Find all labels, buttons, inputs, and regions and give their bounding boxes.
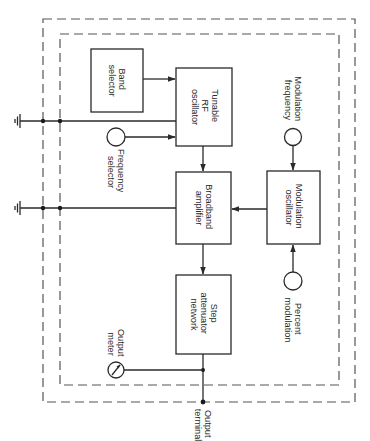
svg-text:Modulation oscillator: Modulation oscillator [284, 184, 304, 232]
output-meter-control: Output meter [106, 329, 126, 378]
frequency-selector-control[interactable]: Frequency selector [106, 128, 126, 195]
control-label: Percent [293, 303, 303, 335]
ground-icon [15, 201, 20, 215]
control-label: modulation [283, 298, 293, 343]
control-label: meter [106, 332, 116, 356]
output-terminal[interactable]: Output terminal [193, 400, 213, 441]
control-label: Frequency [116, 149, 126, 193]
rf-signal-generator-block-diagram: Band selector Tunable RF oscillator Freq… [0, 0, 370, 441]
svg-text:Frequency selector: Frequency selector [106, 149, 126, 195]
knob-icon[interactable] [107, 128, 125, 146]
broadband-amplifier-block: Broadband amplifier [176, 172, 231, 244]
block-label: selector [107, 64, 117, 96]
control-label: Output [116, 329, 126, 357]
knob-icon[interactable] [285, 129, 302, 146]
terminal-label: terminal [193, 409, 203, 441]
block-label: Modulation [294, 184, 304, 229]
tunable-rf-oscillator-block: Tunable RF oscillator [176, 68, 232, 146]
control-label: selector [106, 156, 116, 188]
block-label: Tunable [210, 89, 220, 122]
ground-icon [15, 114, 20, 128]
block-label: Band [117, 68, 127, 89]
step-attenuator-network-block: Step attenuator network [176, 275, 231, 354]
band-selector-block: Band selector [91, 49, 143, 112]
modulation-oscillator-block: Modulation oscillator [267, 171, 320, 244]
control-label: frequency [283, 80, 293, 121]
control-label: Modulation [293, 76, 303, 121]
svg-text:Band selector: Band selector [107, 64, 127, 96]
block-label: RF [200, 100, 210, 113]
meter-icon [108, 362, 124, 378]
knob-icon[interactable] [284, 272, 302, 290]
block-label: amplifier [194, 191, 204, 226]
block-label: network [189, 298, 199, 331]
modulation-frequency-control[interactable]: Modulation frequency [283, 76, 303, 145]
svg-text:Output terminal: Output terminal [193, 409, 213, 441]
block-label: oscillator [190, 89, 200, 125]
svg-text:Percent modulation: Percent modulation [283, 298, 303, 343]
svg-text:Broadband amplifier: Broadband amplifier [194, 184, 214, 232]
block-label: Step [209, 304, 219, 323]
block-label: Broadband [204, 184, 214, 229]
terminal-label: Output [203, 410, 213, 438]
svg-text:Modulation frequency: Modulation frequency [283, 76, 303, 124]
terminal-icon[interactable] [201, 400, 206, 405]
percent-modulation-control[interactable]: Percent modulation [283, 272, 303, 342]
block-label: attenuator [199, 293, 209, 334]
block-label: oscillator [284, 189, 294, 225]
ground-connection-rf-oscillator [15, 114, 176, 128]
svg-text:Output meter: Output meter [106, 329, 126, 359]
ground-connection-broadband-amplifier [15, 201, 176, 215]
